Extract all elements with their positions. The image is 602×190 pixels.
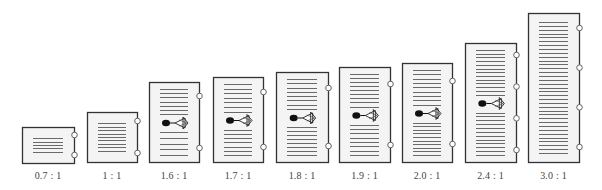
ratio-label: 3.0 : 1 — [519, 170, 589, 181]
binding-hole-icon — [135, 150, 141, 156]
pages-canvas — [0, 0, 602, 190]
binding-hole-icon — [388, 142, 394, 148]
binding-hole-icon — [326, 85, 332, 91]
ratio-label: 2.4 : 1 — [456, 170, 526, 181]
page-2 — [88, 113, 141, 163]
binding-hole-icon — [514, 84, 520, 90]
page-5 — [277, 73, 332, 163]
binding-hole-icon — [514, 147, 520, 153]
ratio-label: 1 : 1 — [77, 170, 147, 181]
binding-hole-icon — [72, 152, 78, 158]
binding-hole-icon — [388, 81, 394, 87]
aspect-ratio-diagram: 0.7 : 11 : 11.6 : 11.7 : 11.8 : 11.9 : 1… — [0, 0, 602, 190]
binding-hole-icon — [577, 25, 583, 31]
binding-hole-icon — [450, 78, 456, 84]
binding-hole-icon — [261, 89, 267, 95]
binding-hole-icon — [197, 93, 203, 99]
page-9 — [529, 14, 583, 163]
page-7 — [403, 64, 456, 163]
ratio-label: 1.9 : 1 — [330, 170, 400, 181]
ratio-label: 1.7 : 1 — [203, 170, 273, 181]
binding-hole-icon — [577, 65, 583, 71]
binding-hole-icon — [514, 116, 520, 122]
page-3 — [150, 83, 203, 163]
binding-hole-icon — [72, 132, 78, 138]
text-lines — [98, 124, 126, 152]
binding-hole-icon — [326, 143, 332, 149]
binding-hole-icon — [135, 118, 141, 124]
binding-hole-icon — [261, 144, 267, 150]
binding-hole-icon — [450, 141, 456, 147]
binding-hole-icon — [577, 105, 583, 111]
binding-hole-icon — [197, 145, 203, 151]
page-4 — [214, 78, 267, 163]
ratio-label: 0.7 : 1 — [13, 170, 83, 181]
binding-hole-icon — [514, 52, 520, 58]
ratio-label: 1.6 : 1 — [139, 170, 209, 181]
page-6 — [340, 68, 394, 163]
page-8 — [466, 44, 520, 163]
ratio-label: 1.8 : 1 — [267, 170, 337, 181]
page-1 — [23, 128, 78, 164]
ratio-label: 2.0 : 1 — [392, 170, 462, 181]
binding-hole-icon — [577, 144, 583, 150]
